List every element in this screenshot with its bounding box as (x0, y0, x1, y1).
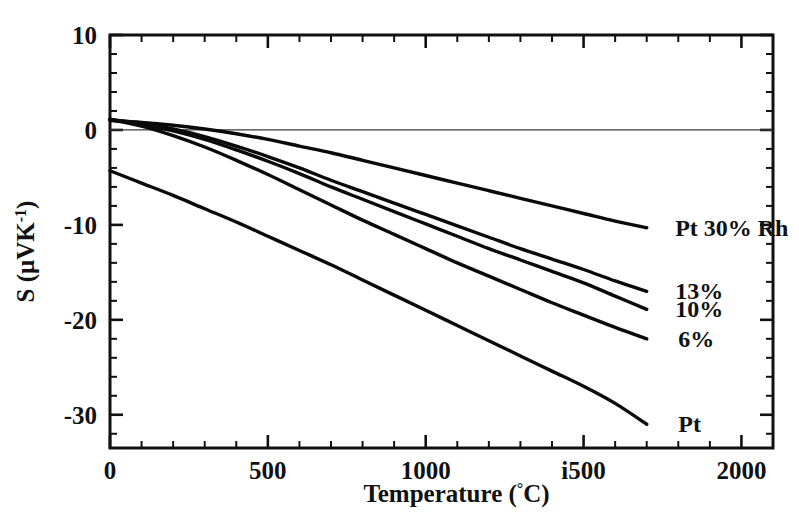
plot-frame (110, 35, 773, 448)
x-tick-label: i500 (561, 457, 605, 484)
y-tick-label: -10 (64, 212, 97, 239)
y-tick-label: 10 (72, 22, 97, 49)
x-tick-label: 2000 (716, 457, 766, 484)
y-tick-label: 0 (85, 117, 98, 144)
series-label-2: 10% (675, 296, 723, 322)
x-tick-label: 500 (249, 457, 287, 484)
series-label-4: Pt (678, 411, 701, 437)
axis-box (110, 35, 773, 448)
y-tick-label: -20 (64, 307, 97, 334)
curve-series-2 (110, 120, 647, 310)
x-axis-title: Temperature (°C) (363, 480, 549, 509)
data-curves (110, 120, 647, 425)
axis-ticks (110, 35, 773, 448)
series-labels: Pt 30% Rh13%10%6%Pt (675, 215, 788, 438)
y-tick-label: -30 (64, 402, 97, 429)
seebeck-coefficient-chart: 05001000i5002000 100-10-20-30 Pt 30% Rh1… (0, 0, 799, 524)
y-axis-tick-labels: 100-10-20-30 (64, 22, 97, 429)
curve-series-3 (110, 120, 647, 339)
series-label-0: Pt 30% Rh (675, 215, 788, 241)
series-label-3: 6% (678, 326, 714, 352)
x-tick-label: 0 (104, 457, 117, 484)
y-axis-title: S (μVK-1) (12, 201, 41, 303)
chart-svg: 05001000i5002000 100-10-20-30 Pt 30% Rh1… (0, 0, 799, 524)
